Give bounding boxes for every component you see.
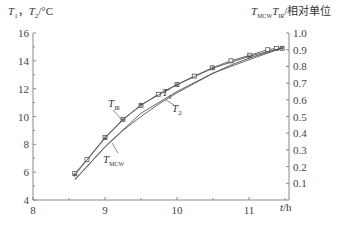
x-axis-tick-label: 9: [102, 204, 108, 216]
left-axis-tick-label: 16: [18, 27, 30, 39]
right-axis-tick-label: 0.7: [293, 77, 307, 89]
annotation-tmcw-sub: MCW: [109, 161, 124, 167]
x-axis-tick-label: 10: [172, 204, 184, 216]
right-axis-tick-label: 1.0: [293, 27, 307, 39]
annotation-tir-leader: [113, 110, 122, 120]
x-axis-tick-label: 8: [30, 204, 36, 216]
left-axis-tick-label: 12: [18, 83, 29, 95]
right-axis-tick-label: 0.8: [293, 60, 307, 72]
right-axis-tick-label: 0.3: [293, 144, 307, 156]
left-axis-tick-label: 6: [24, 166, 30, 178]
right-axis-tick-label: 0.4: [293, 127, 307, 139]
left-axis-tick-label: 8: [24, 138, 30, 150]
left-axis-tick-label: 14: [18, 55, 30, 67]
annotation-t1: T1: [162, 86, 172, 101]
right-axis-tick-label: 0.9: [293, 44, 307, 56]
annotation-t1-sub: 1: [168, 93, 172, 101]
annotation-t2-sub: 2: [178, 109, 182, 117]
annotation-tir-sub: IR: [114, 105, 120, 111]
x-axis-tick-label: 11: [244, 204, 255, 216]
annotation-t2: T2: [172, 102, 182, 117]
left-axis-tick-label: 4: [24, 194, 30, 206]
right-axis-tick-label: 0.1: [293, 177, 307, 189]
right-axis-tick-label: 0.2: [293, 161, 307, 173]
annotation-tmcw-leader: [112, 143, 118, 153]
right-axis-tick-label: 0.5: [293, 111, 307, 123]
right-axis-tick-label: 0.6: [293, 94, 307, 106]
annotation-tir: TIR: [108, 97, 120, 111]
annotation-tmcw: TMCW: [103, 153, 124, 167]
left-axis-tick-label: 10: [18, 111, 30, 123]
